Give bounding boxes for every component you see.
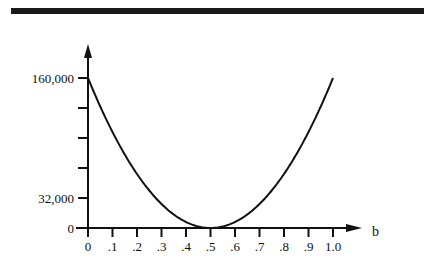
y-tick-label: 0 — [68, 221, 75, 236]
chart: 032,000160,000 0.1.2.3.4.5.6.7.8.91.0 b — [0, 0, 435, 279]
x-axis-label: b — [372, 224, 379, 239]
x-tick-label: 0 — [85, 239, 92, 254]
series — [88, 78, 333, 228]
y-axis-arrow — [84, 44, 92, 58]
y-tick-label: 160,000 — [32, 71, 74, 86]
x-tick-label: .2 — [132, 239, 142, 254]
x-tick-label: .6 — [230, 239, 240, 254]
y-tick-label: 32,000 — [38, 191, 74, 206]
x-tick-label: .1 — [108, 239, 118, 254]
x-ticks: 0.1.2.3.4.5.6.7.8.91.0 — [85, 228, 341, 254]
x-tick-label: .9 — [304, 239, 314, 254]
x-tick-label: .3 — [157, 239, 167, 254]
y-ticks: 032,000160,000 — [32, 71, 88, 236]
x-tick-label: .7 — [255, 239, 265, 254]
x-axis-arrow — [346, 224, 362, 232]
x-tick-label: .5 — [206, 239, 216, 254]
x-tick-label: 1.0 — [325, 239, 341, 254]
axes — [76, 44, 362, 234]
x-tick-label: .4 — [181, 239, 191, 254]
series-line — [88, 78, 333, 228]
x-tick-label: .8 — [279, 239, 289, 254]
